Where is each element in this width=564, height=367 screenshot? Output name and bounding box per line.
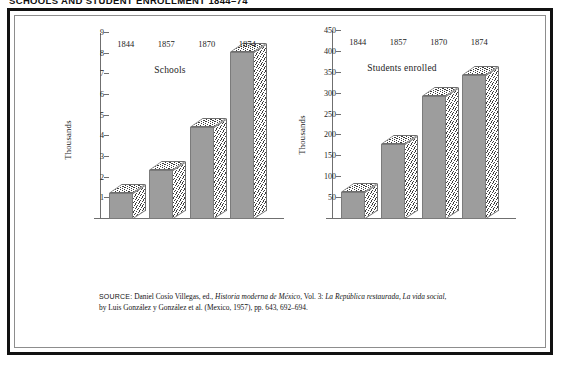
- bar-students-1874: [462, 75, 486, 219]
- bar-side-face: [446, 87, 459, 219]
- ytick-students-300: 300: [298, 89, 336, 99]
- bar-schools-1870: [190, 127, 214, 219]
- chart-students-bars: [333, 31, 508, 219]
- source-label: SOURCE:: [99, 293, 132, 300]
- source-italic-title-2: La República restaurada, La vida social: [325, 292, 444, 301]
- bar-front-face: [381, 144, 405, 219]
- bar-front-face: [422, 96, 446, 219]
- bar-front-face: [230, 52, 254, 219]
- source-text-a: Daniel Cosío Villegas, ed.,: [132, 292, 215, 301]
- chart-students-plot: 50100150200250300350400450 1844185718701…: [332, 31, 508, 219]
- bar-schools-1857: [149, 170, 173, 219]
- xtick-schools-1874: 1874: [223, 39, 271, 49]
- source-text-c: ,: [444, 292, 446, 301]
- bar-front-face: [190, 127, 214, 219]
- page-title: SCHOOLS AND STUDENT ENROLLMENT 1844–74: [9, 0, 429, 6]
- bar-side-face: [405, 135, 418, 219]
- chart-schools-bars: [101, 33, 276, 219]
- bar-front-face: [149, 170, 173, 219]
- ytick-students-200: 200: [298, 130, 336, 140]
- ytick-students-350: 350: [298, 68, 336, 78]
- ytick-students-250: 250: [298, 110, 336, 120]
- ytick-students-100: 100: [298, 172, 336, 182]
- bar-side-face: [214, 119, 227, 219]
- ytick-schools-8: 8: [66, 49, 104, 59]
- ytick-schools-3: 3: [66, 152, 104, 162]
- ytick-students-150: 150: [298, 151, 336, 161]
- ytick-schools-7: 7: [66, 69, 104, 79]
- ytick-schools-6: 6: [66, 90, 104, 100]
- bar-front-face: [462, 75, 486, 219]
- ytick-students-450: 450: [298, 26, 336, 36]
- ytick-schools-1: 1: [66, 193, 104, 203]
- bar-side-face: [486, 66, 499, 219]
- ytick-students-50: 50: [298, 193, 336, 203]
- charts-row: Schools Thousands 123456789 184418571870…: [14, 15, 546, 295]
- bar-front-face: [341, 192, 365, 219]
- source-italic-title-1: Historia moderna de México: [215, 292, 300, 301]
- bar-front-face: [109, 193, 133, 219]
- source-line-1: SOURCE: Daniel Cosío Villegas, ed., Hist…: [99, 292, 499, 303]
- bar-students-1870: [422, 96, 446, 219]
- xtick-students-1874: 1874: [455, 37, 503, 47]
- source-note: SOURCE: Daniel Cosío Villegas, ed., Hist…: [99, 292, 499, 313]
- ytick-schools-2: 2: [66, 173, 104, 183]
- chart-schools-plot: 123456789 1844185718701874: [100, 33, 276, 219]
- ytick-students-400: 400: [298, 47, 336, 57]
- bar-schools-1874: [230, 52, 254, 219]
- source-line-2: by Luis González y González et al. (Mexi…: [99, 303, 499, 314]
- chart-students: Students enrolled Thousands 501001502002…: [286, 15, 518, 295]
- bar-side-face: [254, 43, 267, 219]
- bar-students-1844: [341, 192, 365, 219]
- bar-schools-1844: [109, 193, 133, 219]
- chart-schools: Schools Thousands 123456789 184418571870…: [54, 15, 286, 295]
- source-text-b: , Vol. 3:: [300, 292, 325, 301]
- bar-side-face: [173, 162, 186, 219]
- ytick-schools-5: 5: [66, 111, 104, 121]
- bar-students-1857: [381, 144, 405, 219]
- ytick-schools-9: 9: [66, 28, 104, 38]
- ytick-schools-4: 4: [66, 131, 104, 141]
